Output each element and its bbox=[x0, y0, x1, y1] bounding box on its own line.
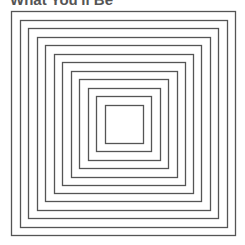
square-outline bbox=[80, 80, 169, 169]
square-outline bbox=[21, 21, 228, 228]
square-outline bbox=[55, 55, 194, 194]
square-outline bbox=[38, 38, 211, 211]
square-outline bbox=[72, 72, 178, 178]
square-outline bbox=[29, 29, 219, 219]
concentric-squares-figure bbox=[0, 0, 245, 245]
square-outline bbox=[63, 63, 186, 186]
square-outline bbox=[106, 106, 144, 144]
square-outline bbox=[89, 89, 161, 161]
